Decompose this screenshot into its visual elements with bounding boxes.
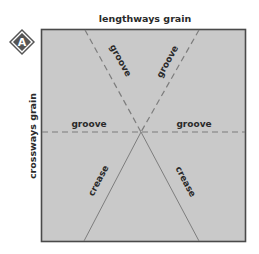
badge-letter: A	[18, 36, 27, 49]
groove-label-right: groove	[176, 119, 211, 129]
badge-a: A	[9, 29, 35, 55]
groove-label-left: groove	[71, 119, 106, 129]
paper-sheet	[42, 30, 246, 242]
crossways-grain-label: crossways grain	[27, 93, 38, 179]
lengthways-grain-label: lengthways grain	[99, 13, 192, 24]
paper-fold-diagram: A lengthways grain crossways grain groov…	[0, 0, 259, 254]
